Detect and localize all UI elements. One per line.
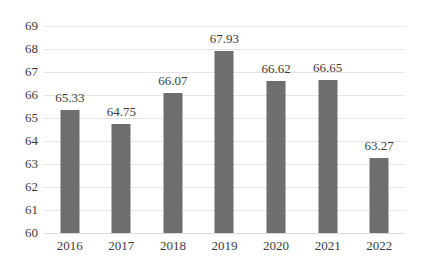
bar-value-label: 67.93 <box>210 32 239 45</box>
y-axis-tick-label: 68 <box>14 42 38 55</box>
bar-slot: 66.65 <box>302 26 354 233</box>
x-axis-tick-label: 2019 <box>212 239 238 253</box>
bar[interactable] <box>318 80 337 233</box>
x-axis-tick-label: 2016 <box>57 239 83 253</box>
bar[interactable] <box>112 124 131 233</box>
bars-layer: 65.3364.7566.0767.9366.6266.6563.27 <box>44 26 405 233</box>
bar[interactable] <box>370 158 389 233</box>
bar-slot: 65.33 <box>44 26 96 233</box>
gridline <box>44 233 405 234</box>
x-axis-tick-label: 2021 <box>315 239 341 253</box>
bar-slot: 66.62 <box>250 26 302 233</box>
y-axis-tick-label: 63 <box>14 157 38 170</box>
x-axis-tick-label: 2017 <box>108 239 134 253</box>
x-axis-tick-label: 2020 <box>263 239 289 253</box>
bar-slot: 66.07 <box>147 26 199 233</box>
y-axis-tick-label: 62 <box>14 180 38 193</box>
bar-value-label: 64.75 <box>107 105 136 118</box>
x-axis-tick-label: 2018 <box>160 239 186 253</box>
y-axis-tick-label: 69 <box>14 19 38 32</box>
y-axis-tick-label: 61 <box>14 203 38 216</box>
bar[interactable] <box>215 51 234 233</box>
x-axis-tick-label: 2022 <box>366 239 392 253</box>
y-axis-tick-label: 66 <box>14 88 38 101</box>
y-axis-tick-label: 67 <box>14 65 38 78</box>
y-axis-tick-label: 65 <box>14 111 38 124</box>
bar-value-label: 65.33 <box>55 91 84 104</box>
bar-value-label: 66.62 <box>261 62 290 75</box>
bar-slot: 64.75 <box>96 26 148 233</box>
y-axis-tick-label: 60 <box>14 226 38 239</box>
bar-value-label: 66.65 <box>313 61 342 74</box>
bar[interactable] <box>163 93 182 233</box>
bar-slot: 67.93 <box>199 26 251 233</box>
bar[interactable] <box>267 81 286 233</box>
bar-slot: 63.27 <box>353 26 405 233</box>
bar-value-label: 66.07 <box>158 74 187 87</box>
bar[interactable] <box>60 110 79 233</box>
bar-value-label: 63.27 <box>365 139 394 152</box>
y-axis-tick-label: 64 <box>14 134 38 147</box>
bar-chart: 69686766656463626160 65.3364.7566.0767.9… <box>0 0 421 268</box>
x-axis: 2016201720182019202020212022 <box>44 239 405 261</box>
